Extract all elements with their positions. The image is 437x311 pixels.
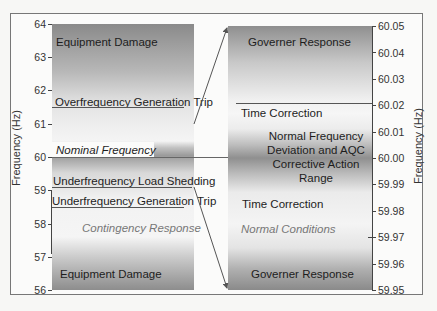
zoom-connector-arrows bbox=[0, 0, 437, 311]
lower-connector-arrow bbox=[194, 187, 227, 288]
upper-connector-arrow bbox=[194, 28, 227, 124]
